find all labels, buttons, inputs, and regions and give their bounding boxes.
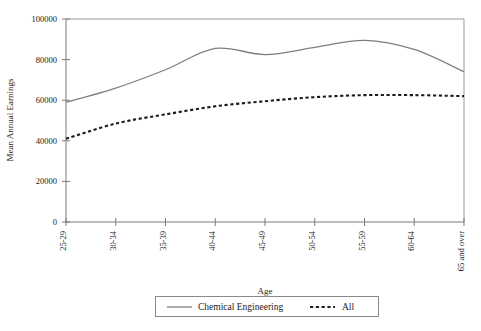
x-tick-label: 60-64 [406, 230, 416, 251]
x-tick-label: 30-34 [108, 230, 118, 251]
legend-label-all: All [342, 302, 355, 312]
y-tick-group: 020000400006000080000100000 [32, 14, 71, 227]
y-tick-label: 40000 [36, 136, 57, 146]
x-tick-label: 25-29 [58, 231, 68, 251]
x-tick-label: 55-59 [357, 231, 367, 251]
earnings-line-chart: 020000400006000080000100000 25-2930-3435… [0, 0, 481, 331]
plot-frame [66, 19, 464, 222]
legend-label-chemical-engineering: Chemical Engineering [198, 302, 283, 312]
chart-container: 020000400006000080000100000 25-2930-3435… [0, 0, 481, 331]
y-tick-label: 0 [53, 217, 57, 227]
chart-legend: Chemical Engineering All [156, 297, 379, 317]
x-tick-label: 45-49 [257, 231, 267, 251]
y-tick-label: 100000 [32, 14, 58, 24]
y-axis-title: Mean Annual Earnings [5, 78, 15, 161]
x-tick-label: 50-54 [307, 230, 317, 251]
y-tick-label: 80000 [36, 55, 57, 65]
x-tick-label: 65 and over [456, 231, 466, 271]
series-line-all [66, 95, 464, 139]
x-axis-title: Age [258, 286, 273, 296]
x-tick-label: 40-44 [207, 230, 217, 251]
series-group [66, 40, 464, 138]
y-tick-label: 20000 [36, 176, 57, 186]
y-tick-label: 60000 [36, 95, 57, 105]
series-line-chemical-engineering [66, 40, 464, 102]
x-tick-group: 25-2930-3435-3940-4445-4950-5455-5960-64… [58, 218, 466, 271]
x-tick-label: 35-39 [158, 231, 168, 251]
